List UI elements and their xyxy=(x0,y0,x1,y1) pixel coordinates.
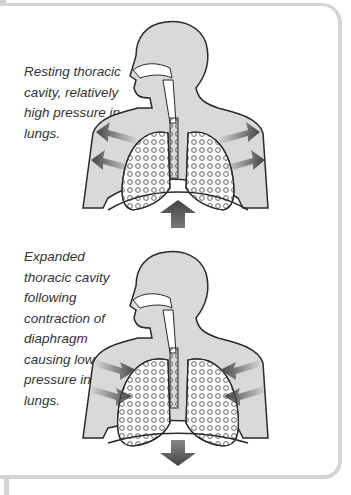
resting-thorax-illustration xyxy=(78,18,278,238)
panel-connector xyxy=(4,478,9,495)
arrow-up xyxy=(160,200,196,228)
expanded-thorax-illustration xyxy=(78,248,278,468)
arrow-down xyxy=(160,440,196,466)
